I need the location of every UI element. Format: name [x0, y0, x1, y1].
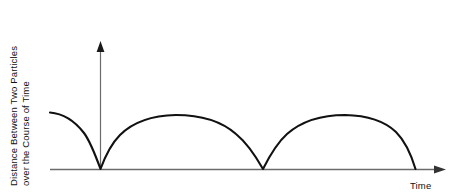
distance-vs-time-plot: Time Distance Between Two Particles over…	[0, 0, 451, 192]
chart-figure: Time Distance Between Two Particles over…	[0, 0, 451, 192]
y-axis-label-line1: Distance Between Two Particles	[8, 46, 19, 186]
distance-curve	[50, 113, 416, 170]
y-axis-label-line2: over the Course of Time	[20, 81, 31, 186]
x-axis-label: Time	[410, 180, 431, 191]
x-axis-arrowhead	[434, 165, 446, 173]
vertical-annotation-arrowhead	[97, 41, 105, 52]
